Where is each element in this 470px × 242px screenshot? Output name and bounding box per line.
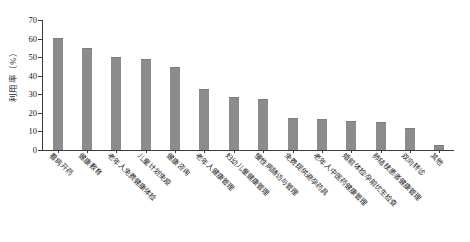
y-tick-label: 0 [33,146,37,155]
x-axis-label: 老年人中医药健康管理 [312,152,367,207]
bar [111,57,121,150]
bar [141,59,151,150]
bar [317,119,327,150]
bar [82,48,92,151]
bar-slot [405,20,415,150]
x-axis-label: 健康教育 [77,152,102,177]
y-tick-mark [38,20,42,21]
x-axis-label: 其他 [429,152,444,167]
bar-slot [288,20,298,150]
y-tick-label: 50 [29,53,38,62]
bar-slot [317,20,327,150]
x-axis-line [42,150,454,151]
bar [199,89,209,150]
bar-slot [82,20,92,150]
y-tick-mark [38,150,42,151]
bar-slot [376,20,386,150]
y-tick-label: 60 [29,34,38,43]
bar-slot [141,20,151,150]
bar [376,122,386,150]
y-axis-title-text: 利用率（%） [6,48,18,102]
plot-area: 010203040506070 [42,20,454,150]
bar [229,97,239,150]
bar-slot [434,20,444,150]
bar-slot [258,20,268,150]
bar [346,121,356,150]
y-axis-title: 利用率（%） [0,0,24,150]
bar [258,99,268,150]
x-axis-labels: 看病开药健康教育老年人免费健康体检儿童计划免疫健康咨询老年人健康管理妇幼儿童健康… [42,152,470,242]
y-tick-mark [38,131,42,132]
bar [405,128,415,150]
y-tick-mark [38,76,42,77]
bar-slot [199,20,209,150]
bar [53,38,63,150]
bar-slot [346,20,356,150]
y-tick-mark [38,94,42,95]
y-tick-mark [38,57,42,58]
bar [170,67,180,150]
bar-slot [229,20,239,150]
x-axis-label: 双向转诊 [400,152,425,177]
x-axis-label: 看病开药 [48,152,73,177]
x-axis-label: 婚前体检/孕前优生检查 [341,152,398,209]
bar-slot [111,20,121,150]
y-tick-mark [38,39,42,40]
y-tick-mark [38,113,42,114]
y-tick-label: 70 [29,16,38,25]
bar [288,118,298,150]
y-tick-label: 30 [29,90,38,99]
bar-slot [170,20,180,150]
y-tick-label: 40 [29,71,38,80]
x-axis-label: 健康咨询 [165,152,190,177]
bar-chart: 利用率（%） 010203040506070 看病开药健康教育老年人免费健康体检… [0,0,470,242]
y-tick-label: 10 [29,127,38,136]
bar-series [43,20,454,150]
bar-slot [53,20,63,150]
y-tick-label: 20 [29,109,38,118]
